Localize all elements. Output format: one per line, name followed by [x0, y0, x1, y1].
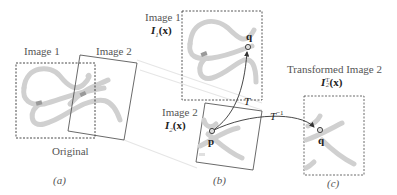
transformed-image-title: Transformed Image 2 — [287, 64, 382, 75]
ribbon-shape-b2 — [200, 120, 242, 158]
inverse-superscript: −1 — [276, 109, 283, 117]
diagram-canvas — [0, 0, 397, 195]
caption-a: (a) — [53, 175, 66, 186]
transform-label-T: T — [244, 96, 250, 107]
image2-label-b: Image 2 — [162, 107, 198, 118]
faint-mark-b — [199, 153, 205, 156]
point-q-c-icon — [317, 127, 322, 132]
point-p-label: p — [208, 136, 214, 147]
point-q-label-b: q — [246, 31, 252, 42]
caption-b: (b) — [213, 175, 226, 186]
original-label: Original — [52, 146, 89, 157]
image1-label-a: Image 1 — [24, 46, 60, 57]
image2-frame-b — [196, 103, 262, 170]
image2-label-a: Image 2 — [96, 46, 132, 57]
func-argument: (x) — [173, 119, 186, 131]
inverse-transform-label: T−1 — [270, 110, 284, 122]
point-q-label-c: q — [318, 135, 324, 146]
func-argument: (x) — [159, 24, 172, 36]
func-argument: (x) — [330, 76, 343, 88]
image2-function-label: I2(x) — [165, 120, 186, 134]
image1-label-b: Image 1 — [145, 12, 181, 23]
transformed-function-label: IT2(x) — [321, 77, 342, 89]
ribbon-shape-c — [306, 116, 354, 168]
image1-function-label: I1(x) — [151, 25, 172, 39]
caption-c: (c) — [327, 178, 339, 189]
point-p-b-icon — [209, 128, 214, 133]
inverse-transform-arrow — [212, 116, 314, 131]
ribbon-shape-a — [24, 69, 120, 125]
point-q-b-icon — [245, 44, 250, 49]
